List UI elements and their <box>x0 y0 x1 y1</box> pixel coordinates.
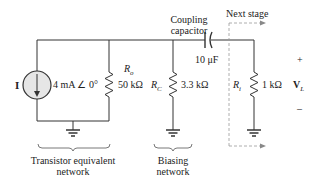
vl-label: VL <box>293 80 304 93</box>
minus-sign: – <box>297 104 302 114</box>
rc-value: 3.3 kΩ <box>181 80 208 90</box>
rc-resistor <box>169 72 177 97</box>
source-symbol: I <box>15 80 19 91</box>
capacitor-value: 10 μF <box>195 55 218 65</box>
arrow-icon <box>260 144 266 149</box>
ro-name: Ro <box>124 64 134 77</box>
biasing-brace <box>154 144 192 151</box>
current-source <box>23 71 51 99</box>
source-value: 4 mA ∠ 0° <box>53 80 98 90</box>
rc-name: RC <box>151 80 162 93</box>
ground-icon <box>166 130 180 136</box>
plus-sign: + <box>297 55 303 65</box>
ri-resistor <box>250 72 258 97</box>
ground-icon <box>66 130 80 136</box>
ri-name: Ri <box>233 80 241 93</box>
transistor-network-label: Transistor equivalentnetwork <box>20 155 126 177</box>
biasing-network-label: Biasingnetwork <box>148 155 198 177</box>
transistor-brace <box>38 144 110 151</box>
ro-value: 50 kΩ <box>118 80 143 90</box>
coupling-capacitor-label: Couplingcapacitor <box>164 14 214 36</box>
next-stage-label: Next stage <box>226 9 269 19</box>
ground-icon <box>247 130 261 136</box>
arrow-icon <box>260 21 266 26</box>
ri-value: 1 kΩ <box>262 80 282 90</box>
ro-resistor <box>105 72 113 97</box>
